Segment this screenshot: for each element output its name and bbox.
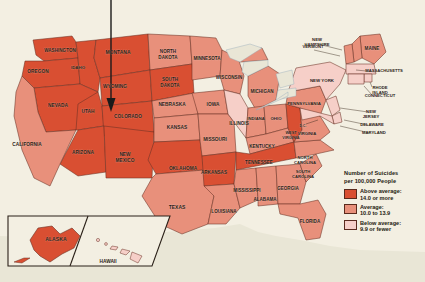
state-label: KENTUCKY — [249, 144, 275, 149]
state-label: OREGON — [27, 69, 49, 74]
state-label: OHIO — [270, 116, 282, 121]
legend-label-above: Above average: 14.0 or more — [360, 188, 402, 201]
state-label: FLORIDA — [300, 219, 321, 224]
state-label: GEORGIA — [277, 186, 299, 191]
state-connecticut[interactable] — [348, 74, 364, 84]
state-label: WASHINGTON — [44, 48, 76, 53]
legend-swatch-average — [344, 204, 357, 214]
legend-swatch-above — [344, 189, 357, 199]
state-label: COLORADO — [114, 114, 142, 119]
state-label: INDIANA — [247, 116, 264, 121]
legend-title-line1: Number of Suicides — [344, 170, 398, 176]
legend-row-above[interactable]: Above average: 14.0 or more — [344, 188, 425, 201]
state-label: NEBRASKA — [158, 102, 186, 107]
state-label: TENNESSEE — [245, 160, 273, 165]
state-label: MAINE — [365, 46, 380, 51]
state-indiana[interactable] — [246, 106, 266, 138]
state-label: WISCONSIN — [216, 75, 243, 80]
state-label: IOWA — [207, 102, 220, 107]
state-label: MISSOURI — [203, 137, 227, 142]
state-rhode-island[interactable] — [364, 74, 372, 82]
state-label: IDAHO — [71, 65, 86, 70]
state-label: ILLINOIS — [229, 121, 248, 126]
state-label: VERMONT — [303, 44, 324, 49]
state-label: D.C. — [300, 124, 307, 128]
state-label: MASSACHUSETTS — [365, 68, 403, 73]
legend-label-below: Below average: 9.9 or fewer — [360, 220, 401, 233]
legend-title: Number of Suicides per 100,000 People — [344, 170, 425, 185]
state-label: MONTANA — [105, 49, 131, 55]
alaska-inset-label: ALASKA — [45, 236, 67, 242]
state-label: PENNSYLVANIA — [287, 101, 322, 106]
state-label: TEXAS — [169, 204, 186, 210]
legend-title-line2: per 100,000 People — [344, 178, 396, 184]
legend-row-average[interactable]: Average: 10.0 to 13.9 — [344, 204, 425, 217]
state-label: VIRGINIA — [298, 131, 317, 136]
map-legend: Number of Suicides per 100,000 People Ab… — [344, 170, 425, 235]
state-label: NEW YORK — [310, 78, 335, 83]
legend-row-below[interactable]: Below average: 9.9 or fewer — [344, 220, 425, 233]
state-label: SOUTHDAKOTA — [160, 77, 180, 88]
state-label: ALABAMA — [253, 197, 277, 202]
state-label: LOUISIANA — [211, 209, 237, 214]
state-label: UTAH — [82, 109, 96, 114]
state-label: NORTHDAKOTA — [158, 49, 178, 60]
state-label: KANSAS — [167, 125, 188, 130]
state-label: NEVADA — [48, 103, 68, 108]
map-figure: WASHINGTONOREGONIDAHOMONTANAWYOMINGNEVAD… — [0, 0, 425, 282]
state-vermont[interactable] — [344, 44, 354, 64]
state-label: MINNESOTA — [193, 56, 221, 61]
legend-swatch-below — [344, 220, 357, 230]
state-label: MISSISSIPPI — [233, 188, 260, 193]
state-label: MARYLAND — [362, 130, 386, 135]
state-label: DELAWARE — [360, 122, 384, 127]
hawaii-inset-label: HAWAII — [99, 259, 117, 264]
state-label: ARKANSAS — [201, 170, 227, 175]
state-label: CONNECTICUT — [365, 93, 396, 98]
state-label: OKLAHOMA — [169, 166, 198, 171]
state-label: WYOMING — [103, 84, 127, 89]
state-arkansas[interactable] — [202, 152, 236, 186]
us-choropleth-map: WASHINGTONOREGONIDAHOMONTANAWYOMINGNEVAD… — [0, 0, 425, 282]
state-label: ARIZONA — [72, 150, 94, 155]
state-label: MICHIGAN — [250, 89, 274, 94]
state-label: CALIFORNIA — [12, 142, 42, 147]
legend-label-average: Average: 10.0 to 13.9 — [360, 204, 390, 217]
